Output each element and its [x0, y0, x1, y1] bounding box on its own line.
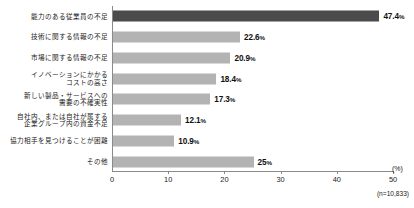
x-axis-tick-label: 40 [333, 175, 341, 184]
bar-value-number: 17.3 [214, 95, 230, 104]
x-axis-tick-label: 0 [110, 175, 114, 184]
x-axis-tick-label: 30 [276, 175, 284, 184]
x-axis-tick-label: 10 [164, 175, 172, 184]
bar-value-label: 18.4% [220, 74, 241, 83]
bar-container: 22.6% [113, 32, 265, 43]
bar-value-label: 17.3% [214, 95, 235, 104]
bar-value-number: 12.1 [185, 116, 201, 125]
category-label: 能力のある従業員の不足 [0, 13, 108, 21]
bar [113, 135, 174, 146]
x-axis-tick-mark [337, 171, 338, 174]
category-label: 協力相手を見つけることが困難 [0, 137, 108, 145]
bar-row: 技術に関する情報の不足22.6% [0, 27, 414, 48]
bar-chart: 能力のある従業員の不足47.4%技術に関する情報の不足22.6%市場に関する情報… [0, 0, 414, 208]
bar-container: 17.3% [113, 94, 235, 105]
bar-value-number: 47.4 [383, 12, 399, 21]
category-label: イノベーションにかかる コストの高さ [0, 71, 108, 86]
bar [113, 94, 210, 105]
sample-size-note: (n=10,833) [377, 190, 409, 197]
bar [113, 52, 230, 63]
bar-value-label: 47.4% [383, 12, 404, 21]
x-axis-tick-mark [281, 171, 282, 174]
x-axis-unit-label: (%) [392, 165, 403, 172]
bar-rows: 能力のある従業員の不足47.4%技術に関する情報の不足22.6%市場に関する情報… [0, 6, 414, 172]
bar-value-percent-sign: % [230, 96, 235, 103]
bar-value-percent-sign: % [260, 34, 265, 41]
x-axis-tick-mark [168, 171, 169, 174]
bar-container: 18.4% [113, 73, 241, 84]
category-label: 技術に関する情報の不足 [0, 33, 108, 41]
bar [113, 73, 216, 84]
bar-row: 協力相手を見つけることが困難10.9% [0, 131, 414, 152]
bar-value-number: 20.9 [234, 53, 250, 62]
bar-value-percent-sign: % [266, 158, 271, 165]
bar-value-label: 22.6% [244, 33, 265, 42]
x-axis-ticks: 01020304050 [0, 171, 414, 187]
bar-value-number: 22.6 [244, 33, 260, 42]
bar-row: イノベーションにかかる コストの高さ18.4% [0, 68, 414, 89]
bar-value-percent-sign: % [201, 117, 206, 124]
bar [113, 115, 181, 126]
bar-row: 能力のある従業員の不足47.4% [0, 6, 414, 27]
x-axis-tick-label: 50 [389, 175, 397, 184]
bar-container: 10.9% [113, 135, 199, 146]
category-label: その他 [0, 158, 108, 166]
bar-container: 25% [113, 156, 272, 167]
bar-value-number: 10.9 [178, 136, 194, 145]
category-label: 自社内、または自社が属する 企業グループ内の資金不足 [0, 113, 108, 128]
category-label: 新しい製品・サービスへの 需要の不確実性 [0, 92, 108, 107]
x-axis-tick-label: 20 [220, 175, 228, 184]
bar-value-label: 12.1% [185, 116, 206, 125]
bar-row: 自社内、または自社が属する 企業グループ内の資金不足12.1% [0, 110, 414, 131]
bar-value-percent-sign: % [399, 13, 404, 20]
bar [113, 156, 254, 167]
x-axis-tick-mark [224, 171, 225, 174]
bar-container: 47.4% [113, 11, 404, 22]
bar-value-number: 18.4 [220, 74, 236, 83]
bar-value-label: 25% [258, 157, 272, 166]
bar-value-percent-sign: % [194, 137, 199, 144]
bar-row: 市場に関する情報の不足20.9% [0, 48, 414, 69]
bar [113, 11, 379, 22]
bar-value-label: 20.9% [234, 53, 255, 62]
bar-container: 12.1% [113, 115, 206, 126]
bar-value-percent-sign: % [236, 75, 241, 82]
bar-row: その他25% [0, 151, 414, 172]
bar-row: 新しい製品・サービスへの 需要の不確実性17.3% [0, 89, 414, 110]
bar [113, 32, 240, 43]
bar-container: 20.9% [113, 52, 255, 63]
category-label: 市場に関する情報の不足 [0, 54, 108, 62]
bar-value-label: 10.9% [178, 136, 199, 145]
bar-value-percent-sign: % [250, 54, 255, 61]
